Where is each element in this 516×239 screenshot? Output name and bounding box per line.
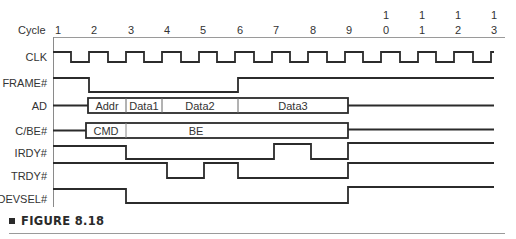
cbe-segment-cmd: CMD [93, 125, 118, 137]
signal-label-cbe: C/BE# [15, 125, 48, 137]
ad-segment-data1: Data1 [129, 100, 158, 112]
caption-rule [9, 233, 505, 234]
signal-label-frame: FRAME# [2, 77, 48, 89]
irdy-waveform [53, 143, 494, 159]
trdy-waveform [53, 163, 494, 178]
cycle-7: 7 [273, 24, 279, 36]
cycle-2: 2 [91, 24, 97, 36]
cycle-1: 1 [55, 24, 61, 36]
frame-waveform [53, 78, 494, 92]
signal-label-clk: CLK [26, 51, 48, 63]
cycle-5: 5 [200, 24, 206, 36]
cycle-9: 9 [346, 24, 352, 36]
cycle-10-bottom: 0 [383, 24, 389, 36]
signal-label-trdy: TRDY# [11, 170, 48, 182]
cycle-label: Cycle [18, 24, 46, 36]
timing-diagram: Cycle 1 2 3 4 5 6 7 8 9 1 0 1 1 1 2 1 3 … [0, 0, 516, 239]
cycle-10-top: 1 [383, 9, 389, 21]
cycle-11-top: 1 [419, 9, 425, 21]
ad-bus-box [88, 98, 348, 113]
cycle-3: 3 [128, 24, 134, 36]
cycle-11-bottom: 1 [419, 24, 425, 36]
cbe-segment-be: BE [189, 125, 204, 137]
cycle-6: 6 [237, 24, 243, 36]
cycle-4: 4 [164, 24, 170, 36]
signal-label-irdy: IRDY# [15, 147, 48, 159]
cycle-12-top: 1 [455, 9, 461, 21]
cycle-13-top: 1 [491, 9, 497, 21]
caption-text: FIGURE 8.18 [21, 214, 104, 228]
signal-label-ad: AD [32, 100, 47, 112]
ad-segment-addr: Addr [95, 100, 119, 112]
signal-label-devsel: DEVSEL# [0, 193, 48, 205]
cycle-8: 8 [310, 24, 316, 36]
figure-caption: FIGURE 8.18 [9, 214, 104, 228]
devsel-waveform [53, 187, 494, 203]
cycle-12-bottom: 2 [455, 24, 461, 36]
ad-segment-data3: Data3 [278, 100, 307, 112]
caption-bullet-icon [9, 218, 15, 224]
clk-waveform [53, 52, 494, 62]
ad-segment-data2: Data2 [185, 100, 214, 112]
cbe-bus-box [86, 123, 348, 138]
cycle-13-bottom: 3 [491, 24, 497, 36]
